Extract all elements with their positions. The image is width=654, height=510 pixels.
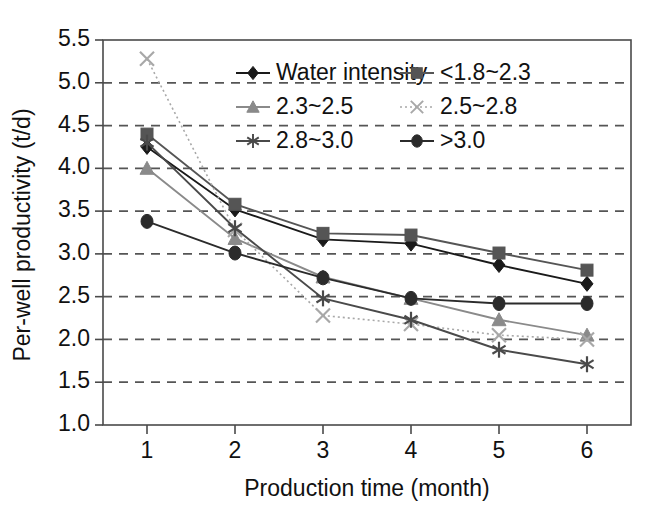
data-point-circle [581,297,593,311]
data-point-square [317,227,329,239]
data-point-circle [229,246,241,260]
x-tick-label: 4 [405,437,418,463]
legend-label: 2.8~3.0 [276,127,353,153]
legend-label: >3.0 [440,127,485,153]
y-tick-label: 1.0 [58,410,90,436]
y-tick-label: 5.0 [58,68,90,94]
data-point-circle [412,135,423,147]
line-chart-canvas: 1.01.52.02.53.03.54.04.55.05.5 123456 Wa… [0,0,654,510]
y-tick-label: 5.5 [58,25,90,51]
data-point-circle [317,271,329,285]
y-tick-label: 1.5 [58,367,90,393]
data-point-square [581,264,593,276]
x-tick-label: 2 [229,437,242,463]
legend-label: <1.8~2.3 [440,59,531,85]
chart-figure: 1.01.52.02.53.03.54.04.55.05.5 123456 Wa… [0,0,654,510]
x-tick-label: 3 [317,437,330,463]
x-tick-label: 1 [141,437,154,463]
data-point-circle [141,214,153,228]
x-tick-label: 6 [581,437,594,463]
y-tick-label: 2.5 [58,282,90,308]
y-tick-label: 4.5 [58,111,90,137]
x-axis-title: Production time (month) [244,475,489,501]
data-point-square [493,247,505,259]
y-tick-label: 2.0 [58,325,90,351]
y-tick-label: 3.0 [58,239,90,265]
data-point-circle [493,297,505,311]
y-tick-label: 3.5 [58,196,90,222]
legend-label: 2.3~2.5 [276,93,353,119]
x-tick-label: 5 [493,437,506,463]
y-tick-label: 4.0 [58,153,90,179]
legend-label: 2.5~2.8 [440,93,517,119]
data-point-square [412,68,423,79]
data-point-circle [405,291,417,305]
data-point-square [405,229,417,241]
y-axis-title: Per-well productivity (t/d) [9,108,35,361]
data-point-square [229,198,241,210]
